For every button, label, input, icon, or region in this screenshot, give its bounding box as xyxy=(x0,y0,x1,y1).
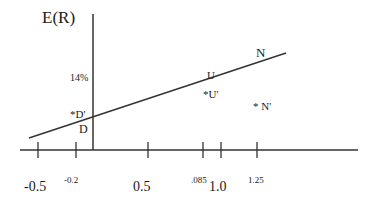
point-label-d-prime: *D' xyxy=(70,109,85,120)
x-tick-label-1-0: 1.0 xyxy=(209,180,227,194)
x-tick-label-1-25: 1.25 xyxy=(248,176,264,185)
y-tick-label-14: 14% xyxy=(70,73,88,83)
x-tick-label-neg0-5: -0.5 xyxy=(24,180,46,194)
y-axis-label: E(R) xyxy=(42,9,75,26)
point-label-u-prime: *U' xyxy=(203,89,218,100)
x-tick-label-0-5: 0.5 xyxy=(133,180,151,194)
security-market-line xyxy=(29,53,286,138)
point-label-n: N xyxy=(256,46,265,59)
x-tick-label-neg0-2: -0.2 xyxy=(64,176,78,185)
point-label-d: D xyxy=(79,123,88,135)
x-tick-label-085: .085 xyxy=(191,176,207,185)
point-label-u: U xyxy=(207,70,215,81)
point-label-n-prime: * N' xyxy=(253,101,271,112)
